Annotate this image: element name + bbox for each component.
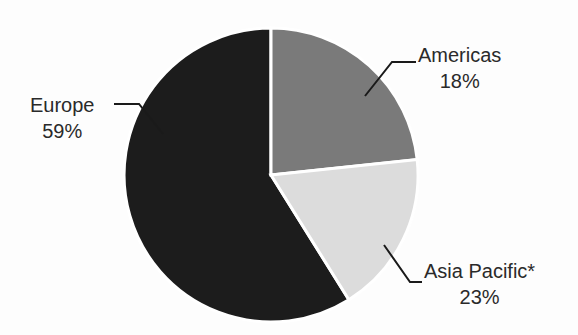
slice-label-asia-pacific-name: Asia Pacific* xyxy=(424,258,535,284)
slice-label-asia-pacific: Asia Pacific* 23% xyxy=(424,258,535,310)
slice-label-americas: Americas 18% xyxy=(418,42,501,94)
slice-label-americas-name: Americas xyxy=(418,42,501,68)
pie-slice-americas[interactable] xyxy=(271,28,417,175)
slice-label-europe-name: Europe xyxy=(30,92,95,118)
slice-label-asia-pacific-value: 23% xyxy=(424,284,535,310)
slice-label-europe-value: 59% xyxy=(30,118,95,144)
slice-label-europe: Europe 59% xyxy=(30,92,95,144)
slice-label-americas-value: 18% xyxy=(418,68,501,94)
pie-chart-figure: Americas 18% Europe 59% Asia Pacific* 23… xyxy=(0,0,578,335)
